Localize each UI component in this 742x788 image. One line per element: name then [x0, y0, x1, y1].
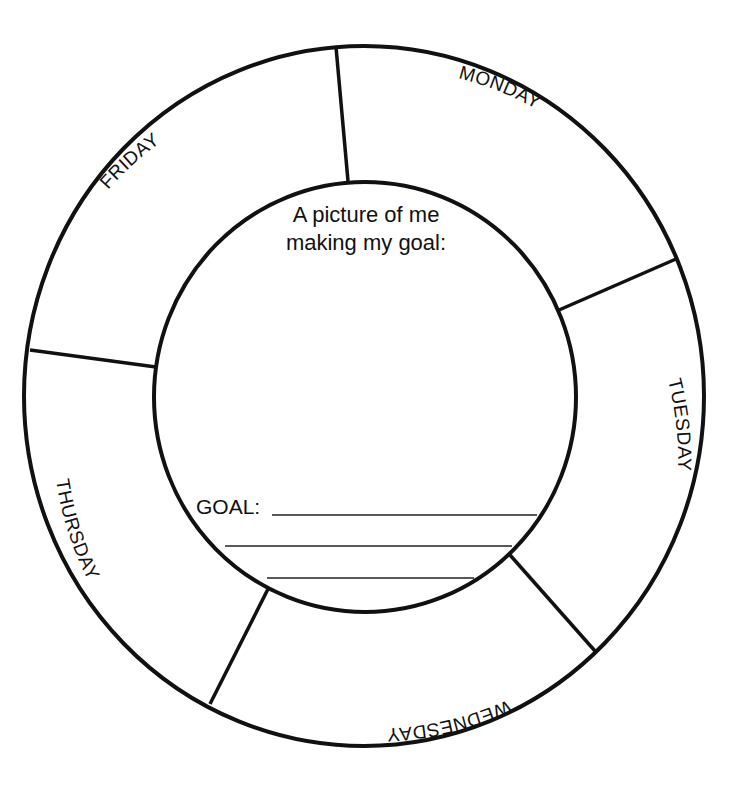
prompt-line-1: A picture of me — [293, 202, 440, 227]
goal-wheel-drawing: MONDAY TUESDAY WEDNESDAY THURSDAY FRIDAY… — [0, 0, 742, 788]
day-label-monday: MONDAY — [457, 62, 545, 113]
divider-monday-tuesday — [559, 259, 676, 310]
divider-friday-monday — [336, 47, 348, 181]
divider-thursday-friday — [30, 350, 156, 367]
goal-wheel-worksheet: MONDAY TUESDAY WEDNESDAY THURSDAY FRIDAY… — [0, 0, 742, 788]
day-label-friday: FRIDAY — [95, 129, 163, 193]
day-label-tuesday: TUESDAY — [664, 376, 695, 471]
day-label-thursday: THURSDAY — [52, 477, 104, 583]
goal-label: GOAL: — [196, 495, 260, 518]
day-label-wednesday: WEDNESDAY — [386, 696, 514, 745]
divider-wednesday-thursday — [210, 589, 268, 704]
picture-drawing-area[interactable] — [200, 265, 530, 485]
divider-tuesday-wednesday — [510, 555, 595, 651]
prompt-line-2: making my goal: — [286, 230, 446, 255]
